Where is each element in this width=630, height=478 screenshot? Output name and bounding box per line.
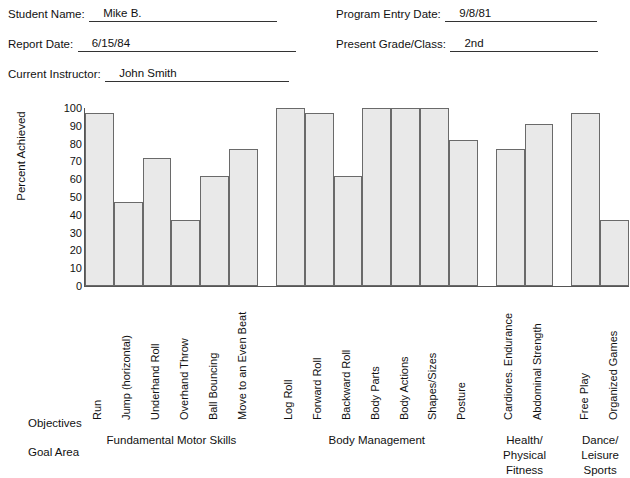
category-label: Log Roll (283, 380, 294, 420)
y-axis-tick-40: 40 (70, 210, 82, 221)
category-label: Backward Roll (341, 350, 352, 420)
bar (171, 220, 200, 286)
category-label: Shapes/Sizes (427, 353, 438, 420)
current-instructor-label: Current Instructor: (8, 68, 101, 80)
program-entry-date-row: Program Entry Date: 9/8/81 (336, 4, 597, 26)
student-report-header: Student Name: Mike B. Report Date: 6/15/… (0, 0, 630, 88)
category-label: Ball Bouncing (208, 353, 219, 420)
bar (449, 140, 478, 286)
y-axis-tick-80: 80 (70, 139, 82, 150)
student-name-row: Student Name: Mike B. (8, 4, 277, 26)
present-grade-class-field[interactable]: 2nd (450, 37, 598, 52)
report-date-row: Report Date: 6/15/84 (8, 34, 296, 56)
bar (496, 149, 525, 286)
objectives-row-label: Objectives (28, 417, 82, 429)
category-label: Posture (456, 382, 467, 420)
category-label: Underhand Roll (150, 344, 161, 420)
category-label: Organized Games (608, 331, 619, 420)
y-axis-tick-0: 0 (76, 281, 82, 292)
report-date-field[interactable]: 6/15/84 (78, 37, 296, 52)
y-axis-tick-10: 10 (70, 263, 82, 274)
bar (571, 113, 600, 286)
bar (420, 108, 449, 286)
plot-area (85, 108, 629, 286)
program-entry-date-field[interactable]: 9/8/81 (445, 7, 597, 22)
current-instructor-row: Current Instructor: John Smith (8, 64, 289, 86)
student-name-field[interactable]: Mike B. (89, 7, 277, 22)
student-name-label: Student Name: (8, 8, 85, 20)
bar (276, 108, 305, 286)
current-instructor-field[interactable]: John Smith (105, 67, 289, 82)
bar (229, 149, 258, 286)
y-axis-ticks: 1009080706050403020100 (40, 102, 82, 294)
y-axis-tick-60: 60 (70, 174, 82, 185)
y-axis-tick-50: 50 (70, 192, 82, 203)
category-label: Jump (horizontal) (121, 335, 132, 420)
goal-area-group-name: Fundamental Motor Skills (65, 433, 278, 448)
percent-achieved-bar-chart: Percent Achieved 1009080706050403020100 … (0, 88, 630, 478)
bar (114, 202, 143, 286)
goal-area-group-name: Body Management (256, 433, 498, 448)
category-label: Body Actions (399, 356, 410, 420)
bar (600, 220, 629, 286)
category-label: Forward Roll (312, 358, 323, 420)
bar (305, 113, 334, 286)
category-label: Body Parts (370, 366, 381, 420)
category-labels: RunJump (horizontal)Underhand RollOverha… (85, 288, 629, 420)
bar (200, 176, 229, 286)
category-label: Run (92, 400, 103, 420)
present-grade-class-label: Present Grade/Class: (336, 38, 446, 50)
y-axis-tick-70: 70 (70, 156, 82, 167)
category-label: Overhand Throw (179, 338, 190, 420)
present-grade-class-row: Present Grade/Class: 2nd (336, 34, 598, 56)
y-axis-tick-30: 30 (70, 228, 82, 239)
goal-area-group-name: Dance/LeisureSports (551, 433, 630, 478)
bar (362, 108, 391, 286)
category-label: Free Play (579, 373, 590, 420)
bar (391, 108, 420, 286)
y-axis-tick-90: 90 (70, 121, 82, 132)
y-axis-tick-20: 20 (70, 245, 82, 256)
category-label: Cardiores. Endurance (503, 313, 514, 420)
y-axis-title: Percent Achieved (15, 91, 27, 221)
program-entry-date-label: Program Entry Date: (336, 8, 441, 20)
report-date-label: Report Date: (8, 38, 73, 50)
category-label: Abdominal Strength (532, 323, 543, 420)
bar (85, 113, 114, 286)
bar (525, 124, 554, 286)
bar (334, 176, 363, 286)
category-label: Move to an Even Beat (237, 312, 248, 420)
bar (143, 158, 172, 286)
y-axis-tick-100: 100 (64, 103, 82, 114)
